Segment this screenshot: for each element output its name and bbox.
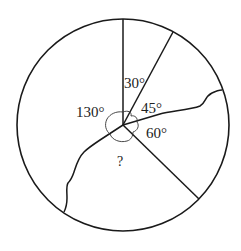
angle-arc-60 xyxy=(133,122,138,132)
angle-label-45: 45° xyxy=(141,100,162,116)
angle-arc-unknown xyxy=(110,132,133,142)
wavy-line-lower-left xyxy=(64,125,123,212)
angle-label-60: 60° xyxy=(146,125,167,141)
angle-label-unknown: ? xyxy=(117,154,123,169)
circle-angle-diagram: 30° 45° 60° 130° ? xyxy=(0,0,241,251)
wavy-line-right xyxy=(123,90,222,125)
angle-label-30: 30° xyxy=(124,75,145,91)
angle-label-130: 130° xyxy=(76,104,105,120)
